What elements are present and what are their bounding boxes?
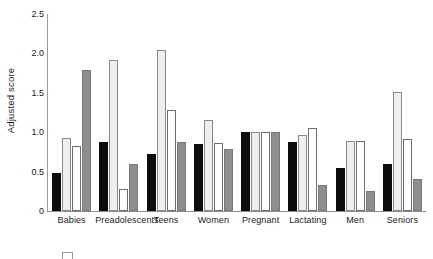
bar-group (336, 14, 375, 211)
x-tick-label: Seniors (379, 214, 426, 226)
y-tick-label: 1.5 (18, 89, 44, 98)
bar (261, 132, 270, 211)
bar (336, 168, 345, 211)
bar (393, 92, 402, 211)
bar (366, 191, 375, 211)
bar (194, 144, 203, 211)
bar (271, 132, 280, 211)
bar (356, 141, 365, 211)
bar-group (99, 14, 138, 211)
bar-group (383, 14, 422, 211)
legend-swatch-icon (62, 252, 73, 259)
x-tick-label: Lactating (284, 214, 331, 226)
bar (109, 60, 118, 211)
bar (62, 138, 71, 211)
x-tick-label: Preadolescents (95, 214, 142, 226)
bar-group (288, 14, 327, 211)
bar (251, 132, 260, 211)
bar (157, 50, 166, 211)
bar (72, 146, 81, 211)
bar (413, 179, 422, 211)
bar (214, 143, 223, 211)
bar (52, 173, 61, 211)
y-tick-label: 0.5 (18, 168, 44, 177)
bar (298, 135, 307, 211)
bar (119, 189, 128, 211)
x-axis-line (47, 211, 426, 212)
bar-group (147, 14, 186, 211)
x-tick-label: Babies (48, 214, 95, 226)
bar (403, 139, 412, 211)
legend-strip-cropped (48, 249, 426, 259)
bar (82, 70, 91, 211)
bar (241, 132, 250, 211)
y-axis-tick-labels: 00.51.01.52.02.5 (16, 0, 44, 259)
x-tick-label: Women (190, 214, 237, 226)
bar (147, 154, 156, 211)
y-tick-label: 0 (18, 207, 44, 216)
bar (99, 142, 108, 211)
bar (177, 142, 186, 211)
x-tick-label: Teens (143, 214, 190, 226)
plot-area (48, 14, 426, 211)
bar-group (52, 14, 91, 211)
bar (288, 142, 297, 211)
y-tick-label: 1.0 (18, 128, 44, 137)
bar (204, 120, 213, 211)
y-tick-label: 2.0 (18, 49, 44, 58)
x-tick-label: Pregnant (237, 214, 284, 226)
y-tick-label: 2.5 (18, 10, 44, 19)
bar (318, 185, 327, 211)
bar (383, 164, 392, 211)
bar-group (241, 14, 280, 211)
bar-chart-figure: Adjusted score 00.51.01.52.02.5 BabiesPr… (0, 0, 433, 259)
bar (346, 141, 355, 211)
x-axis-tick-labels: BabiesPreadolescentsTeensWomenPregnantLa… (48, 214, 426, 230)
bar (224, 149, 233, 211)
bar (308, 128, 317, 211)
x-tick-label: Men (332, 214, 379, 226)
bar-group (194, 14, 233, 211)
bar (129, 164, 138, 211)
bar (167, 110, 176, 211)
